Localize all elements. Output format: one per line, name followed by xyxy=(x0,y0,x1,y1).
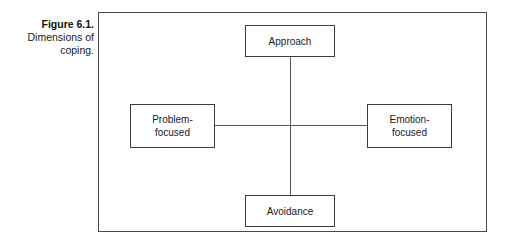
figure-caption-title: Figure 6.1. xyxy=(10,18,94,31)
node-emotion-focused: Emotion- focused xyxy=(367,104,452,148)
node-approach: Approach xyxy=(245,25,335,57)
figure-caption-line-1: Dimensions of xyxy=(10,31,94,44)
connector-problem-emotion xyxy=(215,125,367,126)
node-avoidance: Avoidance xyxy=(245,195,335,227)
figure-caption: Figure 6.1. Dimensions of coping. xyxy=(10,18,94,57)
node-problem-focused: Problem- focused xyxy=(130,104,215,148)
connector-approach-avoidance xyxy=(290,57,291,195)
figure-caption-line-2: coping. xyxy=(10,44,94,57)
